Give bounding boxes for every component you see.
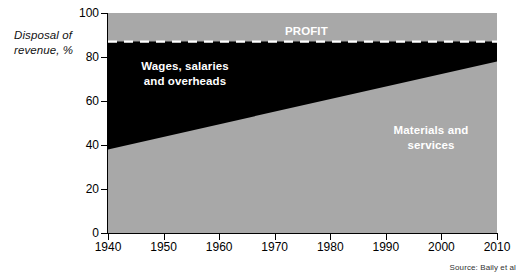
y-tick-mark (101, 233, 107, 234)
x-axis-line (107, 233, 498, 234)
chart-figure: Disposal of revenue, % 020406080100 1940… (0, 0, 528, 280)
x-tick-label: 2010 (484, 240, 511, 254)
profit-label: PROFIT (285, 24, 345, 39)
y-tick-label: 100 (0, 6, 99, 20)
y-tick-mark (101, 145, 107, 146)
y-tick-label: 0 (0, 226, 99, 240)
y-tick-mark (101, 101, 107, 102)
wages-label: Wages, salaries and overheads (126, 59, 244, 88)
materials-label: Materials and services (375, 123, 487, 152)
y-tick-label: 60 (0, 94, 99, 108)
y-axis-line (107, 13, 108, 234)
source-caption: Source: Baily et al (450, 263, 516, 272)
y-tick-label: 20 (0, 182, 99, 196)
y-tick-mark (101, 13, 107, 14)
x-tick-label: 1990 (372, 240, 399, 254)
y-tick-mark (101, 57, 107, 58)
y-tick-mark (101, 189, 107, 190)
x-tick-label: 1960 (206, 240, 233, 254)
x-tick-label: 1970 (261, 240, 288, 254)
y-tick-label: 80 (0, 50, 99, 64)
x-tick-label: 1980 (317, 240, 344, 254)
y-tick-label: 40 (0, 138, 99, 152)
x-tick-label: 1940 (95, 240, 122, 254)
x-tick-label: 1950 (150, 240, 177, 254)
x-tick-label: 2000 (428, 240, 455, 254)
